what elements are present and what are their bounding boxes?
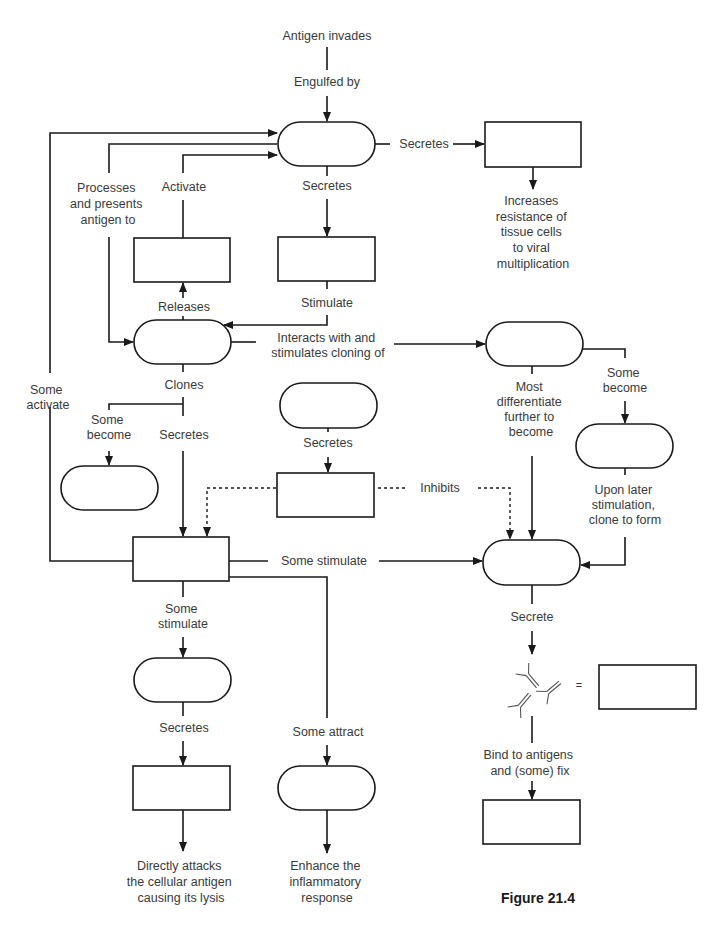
label-bind-to-antigens: Bind to antigens and (some) fix: [483, 748, 576, 778]
blank-interleukin1-box[interactable]: [278, 237, 375, 281]
label-equals: =: [576, 679, 582, 691]
blank-lymphokines-box[interactable]: [133, 537, 229, 581]
label-stimulate: Stimulate: [301, 296, 353, 310]
blank-complement-box[interactable]: [483, 800, 580, 844]
immune-response-flowchart: Antigen invades Engulfed by Secretes Inc…: [0, 0, 723, 929]
connector: [583, 349, 625, 358]
blank-plasma-cell-pill[interactable]: [483, 540, 580, 585]
blank-memory-b-pill[interactable]: [576, 424, 673, 468]
label-secretes-mid: Secretes: [303, 436, 352, 450]
label-increases-resistance: Increases resistance of tissue cells to …: [496, 194, 570, 271]
blank-suppressor-factor-box[interactable]: [277, 473, 374, 517]
label-some-become-left: Some become: [87, 413, 132, 442]
arrow: [183, 155, 277, 173]
label-releases: Releases: [158, 300, 210, 314]
label-some-activate: Some activate: [26, 383, 69, 412]
connector-some-attract: [229, 577, 327, 718]
blank-suppressor-t-pill[interactable]: [280, 383, 377, 428]
blank-interleukin2-box[interactable]: [134, 238, 230, 282]
blank-interferon-box[interactable]: [485, 122, 581, 167]
blank-perforin-box[interactable]: [133, 766, 230, 810]
label-some-attract: Some attract: [293, 725, 364, 739]
label-most-differentiate: Most differentiate further to become: [497, 380, 566, 439]
label-secrete: Secrete: [510, 610, 553, 624]
label-secretes-right: Secretes: [399, 137, 448, 151]
dashed-inhibits-left: [207, 488, 276, 536]
arrow: [224, 315, 327, 325]
label-secretes-cyto: Secretes: [159, 721, 208, 735]
label-some-become-right: Some become: [603, 366, 648, 395]
label-some-stimulate-down: Some stimulate: [158, 602, 208, 631]
blank-macrophages-pill[interactable]: [278, 766, 375, 810]
label-secretes-clones: Secretes: [159, 428, 208, 442]
connector: [109, 404, 183, 410]
label-antigen-invades: Antigen invades: [283, 29, 372, 43]
label-inhibits: Inhibits: [420, 481, 460, 495]
connector-processes-bottom: [109, 237, 133, 342]
antibody-icon: [508, 663, 566, 718]
blank-memory-helper-pill[interactable]: [61, 466, 158, 510]
blank-antibodies-box[interactable]: [599, 665, 696, 709]
label-processes-presents: Processes and presents antigen to: [70, 181, 146, 227]
label-clones: Clones: [165, 378, 204, 392]
label-secretes-top: Secretes: [302, 179, 351, 193]
blank-helper-t-pill[interactable]: [134, 320, 231, 364]
connector-processes-top: [109, 144, 277, 173]
label-engulfed-by: Engulfed by: [294, 75, 361, 89]
blank-macrophage-pill[interactable]: [278, 122, 375, 166]
label-upon-later-stimulation: Upon later stimulation, clone to form: [589, 483, 661, 527]
label-directly-attacks: Directly attacks the cellular antigen ca…: [127, 859, 235, 905]
dashed-inhibits-right: [478, 488, 510, 539]
figure-caption: Figure 21.4: [501, 890, 575, 906]
blank-cytotoxic-t-pill[interactable]: [134, 658, 231, 702]
label-some-stimulate-right: Some stimulate: [281, 554, 367, 568]
label-activate: Activate: [162, 180, 207, 194]
label-enhance-inflammatory: Enhance the inflammatory response: [289, 859, 364, 905]
label-interacts-stimulates-cloning: Interacts with and stimulates cloning of: [271, 331, 385, 360]
arrow: [581, 537, 625, 565]
blank-b-cell-pill[interactable]: [486, 322, 583, 366]
